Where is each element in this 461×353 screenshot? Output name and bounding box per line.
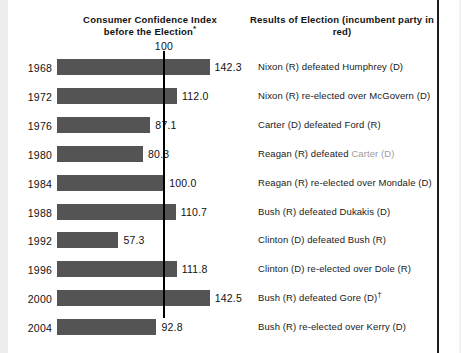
election-result-text: Reagan (R) re-elected over Mondale (D) bbox=[258, 177, 438, 188]
bar-value-label: 111.8 bbox=[182, 263, 208, 275]
result-text-main: Nixon (R) defeated Humphrey (D) bbox=[258, 61, 403, 72]
chart-row: 1972112.0Nixon (R) re-elected over McGov… bbox=[0, 88, 461, 110]
row-year-label: 1992 bbox=[16, 235, 52, 247]
election-result-text: Clinton (D) defeated Bush (R) bbox=[258, 234, 438, 245]
chart-row: 1968142.3Nixon (R) defeated Humphrey (D) bbox=[0, 59, 461, 81]
bar-value-label: 57.3 bbox=[123, 234, 144, 246]
election-result-text: Bush (R) defeated Gore (D)† bbox=[258, 292, 438, 303]
chart-row: 1988110.7Bush (R) defeated Dukakis (D) bbox=[0, 204, 461, 226]
election-result-text: Carter (D) defeated Ford (R) bbox=[258, 119, 438, 130]
bar-value-label: 112.0 bbox=[182, 90, 209, 102]
chart-row: 199257.3Clinton (D) defeated Bush (R) bbox=[0, 232, 461, 254]
chart-row: 1996111.8Clinton (D) re-elected over Dol… bbox=[0, 261, 461, 283]
bar-value-label: 110.7 bbox=[181, 206, 208, 218]
result-incumbent-name: Carter (D) bbox=[351, 148, 394, 159]
row-year-label: 1980 bbox=[16, 149, 52, 161]
election-result-text: Nixon (R) re-elected over McGovern (D) bbox=[258, 90, 438, 101]
election-result-text: Reagan (R) defeated Carter (D) bbox=[258, 148, 438, 159]
row-year-label: 2000 bbox=[16, 293, 52, 305]
result-text-main: Bush (R) defeated Dukakis (D) bbox=[258, 206, 390, 217]
result-text-main: Bush (R) defeated Gore (D) bbox=[258, 292, 377, 303]
dagger-footnote-marker: † bbox=[377, 290, 382, 299]
result-text-main: Clinton (D) re-elected over Dole (R) bbox=[258, 263, 411, 274]
bar-value-label: 100.0 bbox=[169, 177, 196, 189]
page-right-rule bbox=[437, 0, 439, 353]
bar bbox=[57, 175, 164, 191]
bar bbox=[57, 146, 143, 162]
election-result-text: Bush (R) defeated Dukakis (D) bbox=[258, 206, 438, 217]
row-year-label: 1996 bbox=[16, 264, 52, 276]
result-text-main: Carter (D) defeated Ford (R) bbox=[258, 119, 381, 130]
chart-row: 200492.8Bush (R) re-elected over Kerry (… bbox=[0, 319, 461, 341]
election-result-text: Nixon (R) defeated Humphrey (D) bbox=[258, 61, 438, 72]
bar-value-label: 92.8 bbox=[161, 321, 182, 333]
result-text-main: Reagan (R) defeated bbox=[258, 148, 351, 159]
election-result-text: Bush (R) re-elected over Kerry (D) bbox=[258, 321, 438, 332]
chart-row: 1984100.0Reagan (R) re-elected over Mond… bbox=[0, 175, 461, 197]
chart-page: Consumer Confidence Index before the Ele… bbox=[0, 0, 461, 353]
bar bbox=[57, 290, 210, 306]
bar-value-label: 80.3 bbox=[148, 148, 169, 160]
row-year-label: 1968 bbox=[16, 62, 52, 74]
bar-value-label: 87.1 bbox=[155, 119, 176, 131]
bar bbox=[57, 88, 177, 104]
bar bbox=[57, 261, 177, 277]
row-year-label: 1988 bbox=[16, 207, 52, 219]
result-text-main: Nixon (R) re-elected over McGovern (D) bbox=[258, 90, 430, 101]
bar bbox=[57, 117, 150, 133]
row-year-label: 1976 bbox=[16, 120, 52, 132]
result-text-main: Bush (R) re-elected over Kerry (D) bbox=[258, 321, 406, 332]
row-year-label: 2004 bbox=[16, 322, 52, 334]
result-text-main: Clinton (D) defeated Bush (R) bbox=[258, 234, 386, 245]
bar bbox=[57, 59, 210, 75]
election-result-text: Clinton (D) re-elected over Dole (R) bbox=[258, 263, 438, 274]
bar-value-label: 142.5 bbox=[215, 292, 242, 304]
chart-row: 198080.3Reagan (R) defeated Carter (D) bbox=[0, 146, 461, 168]
chart-rows: 1968142.3Nixon (R) defeated Humphrey (D)… bbox=[0, 0, 461, 353]
bar bbox=[57, 204, 176, 220]
bar-value-label: 142.3 bbox=[215, 61, 242, 73]
bar bbox=[57, 319, 156, 335]
chart-row: 2000142.5Bush (R) defeated Gore (D)† bbox=[0, 290, 461, 312]
reference-line-100 bbox=[163, 51, 165, 318]
row-year-label: 1984 bbox=[16, 178, 52, 190]
result-text-main: Reagan (R) re-elected over Mondale (D) bbox=[258, 177, 432, 188]
chart-row: 197687.1Carter (D) defeated Ford (R) bbox=[0, 117, 461, 139]
bar bbox=[57, 232, 118, 248]
row-year-label: 1972 bbox=[16, 91, 52, 103]
